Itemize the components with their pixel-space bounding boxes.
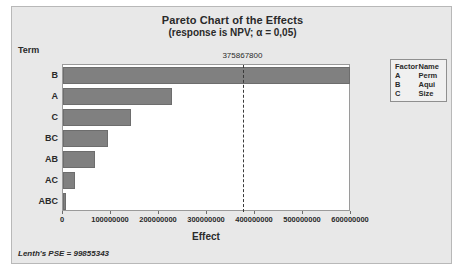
x-tick-mark [254, 211, 255, 214]
bar-ab [63, 151, 95, 168]
bar-a [63, 88, 172, 105]
x-tick-label: 600000000 [331, 215, 369, 224]
legend-factor: A [395, 71, 419, 80]
bar-abc [63, 193, 66, 210]
bar-bc [63, 130, 108, 147]
legend-factor: C [395, 89, 419, 98]
legend-box: Factor Name APermBAquiCSize [390, 59, 447, 102]
x-tick-label: 200000000 [139, 215, 177, 224]
legend-name: Aqui [419, 80, 443, 89]
y-tick-ab: AB [45, 154, 58, 164]
legend-header-factor: Factor [395, 62, 419, 71]
reference-line-label: 375867800 [222, 51, 262, 60]
x-tick-label: 100000000 [91, 215, 129, 224]
y-axis-title: Term [18, 45, 39, 55]
y-tick-ac: AC [45, 175, 58, 185]
footnote: Lenth's PSE = 99855343 [18, 249, 109, 258]
y-tick-a: A [52, 91, 59, 101]
bar-ac [63, 172, 75, 189]
y-tick-bc: BC [45, 133, 58, 143]
bar-b [63, 67, 350, 84]
x-tick-mark [62, 211, 63, 214]
legend-factor: B [395, 80, 419, 89]
legend-row: APerm [395, 71, 443, 80]
x-axis-title: Effect [62, 231, 350, 242]
legend-name: Perm [419, 71, 443, 80]
x-tick-label: 500000000 [283, 215, 321, 224]
plot-area [62, 64, 350, 211]
x-tick-mark [110, 211, 111, 214]
legend-header-row: Factor Name [395, 62, 443, 71]
legend-header-name: Name [419, 62, 443, 71]
y-tick-b: B [52, 70, 59, 80]
y-axis-tick-labels: BACBCABACABC [18, 64, 58, 211]
chart-screenshot: Pareto Chart of the Effects (response is… [0, 0, 461, 275]
legend-row: CSize [395, 89, 443, 98]
x-tick-label: 0 [60, 215, 64, 224]
chart-panel: Pareto Chart of the Effects (response is… [11, 6, 452, 264]
legend-name: Size [419, 89, 443, 98]
x-axis-ticks: 0100000000200000000300000000400000000500… [62, 211, 350, 227]
x-tick-mark [302, 211, 303, 214]
legend-row: BAqui [395, 80, 443, 89]
reference-line [243, 65, 244, 212]
chart-title: Pareto Chart of the Effects [12, 14, 453, 26]
legend-rows: APermBAquiCSize [395, 71, 443, 98]
x-tick-mark [206, 211, 207, 214]
chart-subtitle: (response is NPV; α = 0,05) [12, 27, 453, 38]
y-tick-c: C [52, 112, 59, 122]
y-tick-abc: ABC [39, 196, 59, 206]
x-tick-mark [158, 211, 159, 214]
bar-c [63, 109, 131, 126]
x-tick-label: 300000000 [187, 215, 225, 224]
x-tick-mark [350, 211, 351, 214]
x-tick-label: 400000000 [235, 215, 273, 224]
